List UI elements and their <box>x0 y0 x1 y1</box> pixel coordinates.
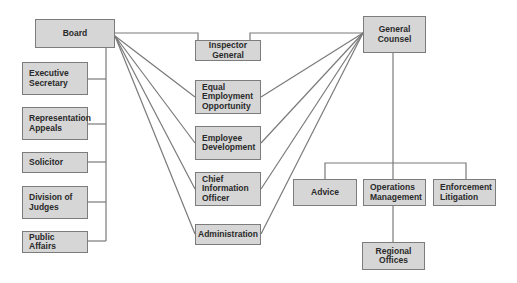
node-inspector-general: Inspector General <box>195 40 261 61</box>
node-general-counsel: General Counsel <box>363 16 426 53</box>
node-representation-appeals: Representation Appeals <box>22 107 88 140</box>
node-division-of-judges: Division of Judges <box>22 186 88 219</box>
node-administration: Administration <box>195 224 261 245</box>
node-equal-employment-opportunity: Equal Employment Opportunity <box>195 80 261 114</box>
node-executive-secretary: Executive Secretary <box>22 62 88 95</box>
node-enforcement-litigation: Enforcement Litigation <box>433 179 496 206</box>
node-solicitor: Solicitor <box>22 152 88 173</box>
node-regional-offices: Regional Offices <box>362 242 425 270</box>
node-employee-development: Employee Development <box>195 126 261 160</box>
node-chief-information-officer: Chief Information Officer <box>195 172 261 206</box>
node-operations-management: Operations Management <box>363 179 426 206</box>
node-public-affairs: Public Affairs <box>22 231 88 253</box>
node-board: Board <box>35 19 115 48</box>
node-advice: Advice <box>293 179 357 206</box>
